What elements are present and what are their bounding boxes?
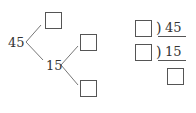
ladder-bracket-1: )	[156, 21, 161, 35]
branch-45-to-15	[26, 42, 43, 60]
ladder-divisor-box-1[interactable]	[135, 20, 152, 37]
tree-answer-box-1[interactable]	[45, 12, 62, 29]
ladder-bracket-2: )	[156, 45, 161, 59]
branch-45-to-box	[26, 25, 41, 42]
tree-answer-box-2[interactable]	[80, 34, 97, 51]
branch-15-to-top-box	[61, 46, 78, 65]
ladder-underline-1	[158, 36, 186, 37]
tree-root-number: 45	[8, 36, 25, 49]
tree-middle-number: 15	[46, 59, 63, 72]
ladder-result-box[interactable]	[167, 68, 184, 85]
ladder-dividend-2: 15	[165, 45, 182, 58]
branch-15-to-bottom-box	[61, 65, 78, 85]
tree-answer-box-3[interactable]	[80, 80, 97, 97]
ladder-underline-2	[158, 60, 186, 61]
ladder-dividend-1: 45	[165, 21, 182, 34]
ladder-divisor-box-2[interactable]	[135, 44, 152, 61]
